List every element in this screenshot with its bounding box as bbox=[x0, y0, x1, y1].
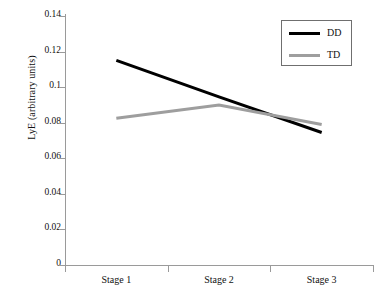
x-tick-mark bbox=[270, 266, 271, 272]
y-tick: 0.06 bbox=[0, 158, 73, 159]
y-tick-label: 0 bbox=[56, 258, 61, 268]
legend-label-td: TD bbox=[327, 50, 340, 60]
y-axis-title: LyE (arbitrary units) bbox=[26, 23, 37, 173]
series-line-dd bbox=[116, 60, 321, 132]
legend-item-dd[interactable]: DD bbox=[282, 26, 351, 40]
x-tick-mark bbox=[65, 266, 66, 272]
x-axis-line bbox=[65, 265, 374, 266]
legend-swatch-td bbox=[289, 54, 320, 57]
y-tick-label: 0.02 bbox=[44, 222, 61, 232]
y-tick: 0.14 bbox=[0, 16, 73, 17]
x-tick-label: Stage 1 bbox=[66, 274, 166, 285]
y-tick-label: 0.14 bbox=[44, 9, 61, 19]
x-tick-label: Stage 2 bbox=[169, 274, 269, 285]
legend-box: DD TD bbox=[281, 20, 352, 66]
y-tick: 0.08 bbox=[0, 123, 73, 124]
y-tick: 0.02 bbox=[0, 229, 73, 230]
x-tick-mark bbox=[168, 266, 169, 272]
y-tick: 0.04 bbox=[0, 194, 73, 195]
y-tick-label: 0.04 bbox=[44, 187, 61, 197]
chart-figure: LyE (arbitrary units) 00.020.040.060.080… bbox=[0, 0, 389, 301]
y-tick-label: 0.06 bbox=[44, 151, 61, 161]
legend-label-dd: DD bbox=[327, 28, 341, 38]
y-tick-label: 0.1 bbox=[49, 80, 61, 90]
x-tick-label: Stage 3 bbox=[272, 274, 372, 285]
legend-swatch-dd bbox=[289, 32, 320, 35]
y-tick: 0 bbox=[0, 265, 73, 266]
y-tick-label: 0.08 bbox=[44, 116, 61, 126]
y-tick-label: 0.12 bbox=[44, 45, 61, 55]
y-tick: 0.12 bbox=[0, 52, 73, 53]
y-tick: 0.1 bbox=[0, 87, 73, 88]
legend-item-td[interactable]: TD bbox=[282, 48, 351, 62]
x-tick-mark bbox=[373, 266, 374, 272]
